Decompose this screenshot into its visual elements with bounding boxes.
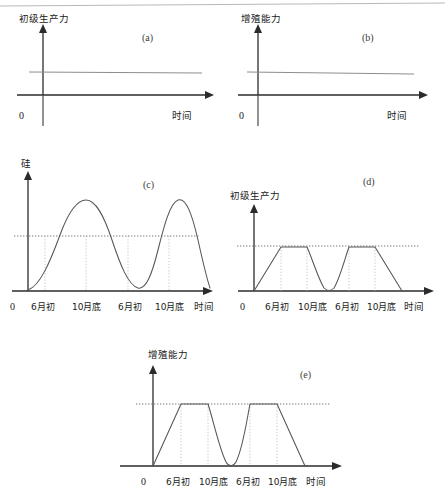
panel-b-origin-label: 0 bbox=[239, 110, 244, 121]
panel-d-tick-label-4: 10月底 bbox=[367, 301, 396, 312]
panel-a-tag: (a) bbox=[142, 32, 153, 44]
panel-b-x-axis-title: 时间 bbox=[387, 110, 407, 121]
panel-c-tick-label-4: 10月底 bbox=[155, 301, 184, 312]
panel-e-x-axis-title: 时间 bbox=[306, 476, 326, 487]
panel-e-tick-label-3: 6月初 bbox=[236, 476, 260, 487]
panel-e-tick-label-4: 10月底 bbox=[268, 476, 297, 487]
panel-c-tag: (c) bbox=[143, 179, 154, 191]
panel-d-tick-label-2: 10月底 bbox=[298, 301, 327, 312]
panel-d-tick-label-1: 6月初 bbox=[265, 301, 289, 312]
panel-e-tick-label-2: 10月底 bbox=[199, 476, 228, 487]
panel-d-tag: (d) bbox=[363, 176, 375, 188]
figure-canvas: 初级生产力 (a) 0 时间 增殖能力 (b) 0 时间 硅 (c) bbox=[0, 0, 445, 494]
panel-d-tick-label-3: 6月初 bbox=[335, 301, 359, 312]
panel-b-y-axis-title: 增殖能力 bbox=[241, 13, 281, 24]
panel-a-x-axis-title: 时间 bbox=[172, 110, 192, 121]
panel-c-tick-label-3: 6月初 bbox=[118, 301, 142, 312]
panel-c-tick-label-2: 10月底 bbox=[72, 301, 101, 312]
panel-c-tick-label-1: 6月初 bbox=[31, 301, 55, 312]
panel-a-y-axis-title: 初级生产力 bbox=[19, 13, 69, 24]
panel-e-origin-label: 0 bbox=[141, 476, 146, 487]
panel-d-y-axis-title: 初级生产力 bbox=[230, 190, 280, 201]
panel-a-origin-label: 0 bbox=[19, 110, 24, 121]
panel-c-origin-label: 0 bbox=[10, 301, 15, 312]
panel-d-origin-label: 0 bbox=[240, 301, 245, 312]
panel-b-tag: (b) bbox=[362, 32, 374, 44]
panel-e-y-axis-title: 增殖能力 bbox=[148, 349, 188, 360]
panel-c-x-axis-title: 时间 bbox=[194, 301, 214, 312]
panel-e-tag: (e) bbox=[300, 369, 311, 381]
panel-e-tick-label-1: 6月初 bbox=[166, 476, 190, 487]
panel-d-x-axis-title: 时间 bbox=[404, 301, 424, 312]
panel-c-y-axis-title: 硅 bbox=[21, 158, 31, 169]
